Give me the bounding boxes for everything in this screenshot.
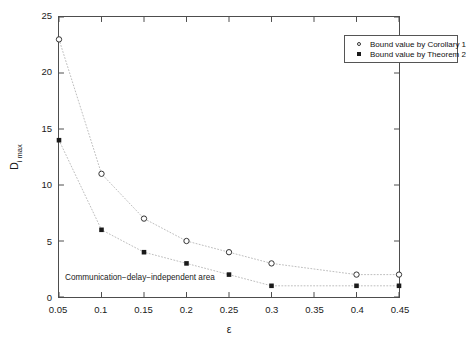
y-tick-label: 20 — [24, 68, 52, 78]
y-tick-label: 0 — [24, 293, 52, 303]
y-tick-label: 10 — [24, 180, 52, 190]
x-tick-label: 0.2 — [180, 305, 193, 315]
x-tick-label: 0.25 — [220, 305, 239, 315]
y-tick-label: 5 — [24, 237, 52, 247]
plot-annotation-text: Communication−delay−independent area — [65, 273, 215, 282]
x-tick-label: 0.1 — [94, 305, 107, 315]
chart-legend: Bound value by Corollary 1 Bound value b… — [344, 35, 458, 63]
legend-item-theorem-2: Bound value by Theorem 2 — [348, 49, 453, 59]
x-tick-label: 0.05 — [49, 305, 68, 315]
open-circle-icon — [348, 42, 370, 47]
x-axis-title: ε — [227, 323, 232, 335]
y-tick-label: 15 — [24, 124, 52, 134]
y-axis-title-subscript: i max — [15, 144, 24, 162]
legend-item-corollary-1: Bound value by Corollary 1 — [348, 39, 453, 49]
filled-square-icon — [348, 52, 370, 57]
x-tick-label: 0.35 — [305, 305, 324, 315]
y-axis-title-base: D — [8, 162, 20, 170]
legend-item-label: Bound value by Theorem 2 — [370, 50, 466, 59]
x-tick-label: 0.4 — [351, 305, 364, 315]
y-tick-label: 25 — [24, 11, 52, 21]
x-tick-label: 0.15 — [134, 305, 153, 315]
plot-area: Communication−delay−independent area Bou… — [58, 16, 400, 298]
x-tick-label: 0.45 — [391, 305, 410, 315]
legend-item-label: Bound value by Corollary 1 — [370, 40, 466, 49]
x-tick-label: 0.3 — [265, 305, 278, 315]
y-axis-title: Di max — [8, 144, 23, 170]
